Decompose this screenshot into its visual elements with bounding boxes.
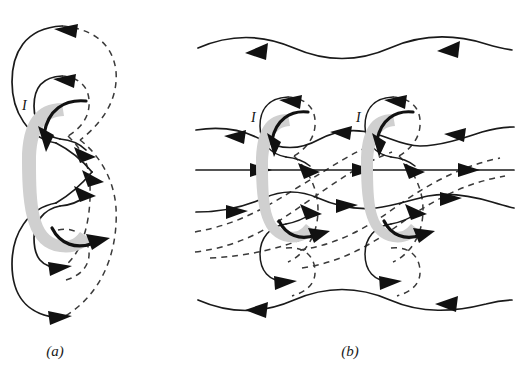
caption-a: (a): [46, 343, 64, 360]
physics-figure: I (a): [0, 0, 517, 374]
caption-b: (b): [341, 343, 359, 360]
